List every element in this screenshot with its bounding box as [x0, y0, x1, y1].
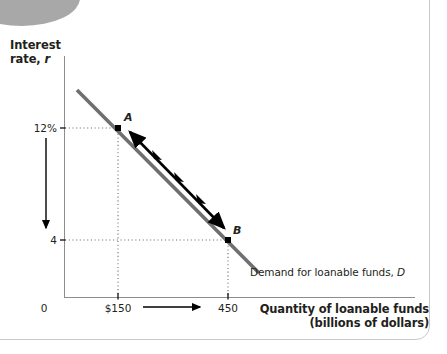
- x-axis-title: Quantity of loanable funds (billions of …: [260, 303, 429, 330]
- chart-vector-layer: [0, 0, 447, 354]
- data-point-b-marker[interactable]: [225, 237, 231, 243]
- x-axis-title-line2: (billions of dollars): [310, 316, 430, 330]
- chart-plot-area: A B Interest rate, r Quantity of loanabl…: [0, 0, 447, 354]
- origin-label: 0: [34, 302, 54, 314]
- x-tick-label-450: 450: [207, 302, 249, 314]
- demand-curve: [77, 90, 259, 273]
- data-point-a-marker[interactable]: [115, 125, 121, 131]
- y-tick-label-12-percent: 12%: [16, 122, 57, 134]
- data-point-a-label: A: [124, 111, 133, 124]
- y-axis-title-line2-prefix: rate,: [10, 52, 45, 66]
- movement-arrowhead-mid-2: [174, 172, 184, 182]
- demand-curve-label: Demand for loanable funds, D: [250, 266, 405, 278]
- x-tick-label-150: $150: [92, 302, 144, 314]
- y-axis-title-variable: r: [45, 52, 51, 66]
- data-point-b-label: B: [233, 224, 241, 237]
- demand-curve-label-text: Demand for loanable funds,: [250, 266, 397, 278]
- y-axis-title-line1: Interest: [10, 38, 61, 52]
- movement-arrowhead-mid-1: [152, 150, 162, 160]
- x-axis-title-line1: Quantity of loanable funds: [260, 302, 429, 316]
- y-tick-label-4: 4: [16, 234, 57, 246]
- y-axis-title: Interest rate, r: [10, 39, 61, 66]
- demand-curve-label-variable: D: [397, 266, 405, 278]
